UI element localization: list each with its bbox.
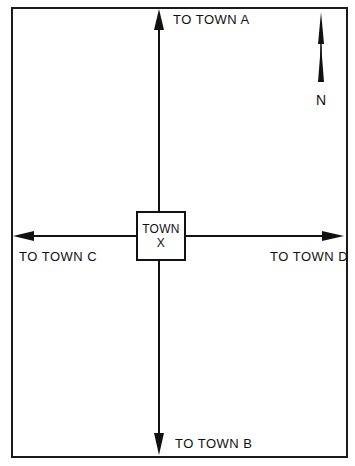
arrow-right-icon: [322, 231, 344, 241]
label-town-a: TO TOWN A: [173, 12, 250, 27]
arrow-down-icon: [154, 433, 164, 455]
label-town-c: TO TOWN C: [19, 249, 97, 264]
compass-label: N: [316, 92, 327, 108]
town-x-box: TOWN X: [136, 211, 186, 261]
town-x-line2: X: [157, 236, 165, 250]
arrow-up-icon: [154, 9, 164, 30]
town-x-line1: TOWN: [142, 222, 180, 236]
label-town-b: TO TOWN B: [175, 436, 252, 451]
arrow-left-icon: [13, 231, 34, 241]
north-arrow-icon: [318, 12, 324, 82]
label-town-d: TO TOWN D: [270, 249, 348, 264]
